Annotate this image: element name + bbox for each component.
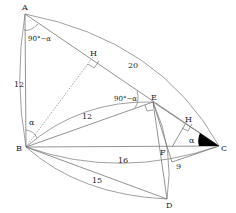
segment-BC: [26, 146, 219, 147]
label-A: A: [21, 3, 28, 12]
length-BD: 15: [92, 176, 102, 185]
label-D: D: [166, 201, 172, 210]
segment-BE: [26, 102, 153, 147]
right-angle-markers: [88, 61, 192, 131]
length-BE: 12: [82, 112, 92, 121]
label-F: F: [160, 148, 166, 157]
label-E: E: [151, 93, 157, 102]
angle-label-C: α: [189, 136, 195, 145]
length-BC: 16: [118, 156, 128, 165]
angle-label-A: 90°−α: [28, 35, 51, 43]
altitude-BH-dotted: [26, 57, 93, 147]
geometry-diagram: A B C D E F H H 12 20 12 16 15 9 90°−α 9…: [0, 0, 236, 213]
length-AC: 20: [128, 61, 138, 70]
segment-BD: [26, 147, 167, 199]
segment-AB: [25, 14, 26, 147]
label-B: B: [16, 144, 22, 153]
segment-FH: [172, 121, 187, 147]
angle-label-B: α: [29, 118, 35, 127]
label-H1: H: [90, 49, 97, 58]
label-C: C: [221, 144, 227, 153]
length-ED: 9: [176, 162, 181, 171]
segments: [25, 14, 219, 199]
angle-fill-C: [198, 133, 219, 146]
right-angle-E: [145, 105, 153, 111]
length-AB: 12: [14, 80, 24, 89]
angle-label-E: 90°−α: [114, 95, 137, 103]
label-H2: H: [185, 115, 192, 124]
angle-arc-A: [24, 24, 38, 30]
